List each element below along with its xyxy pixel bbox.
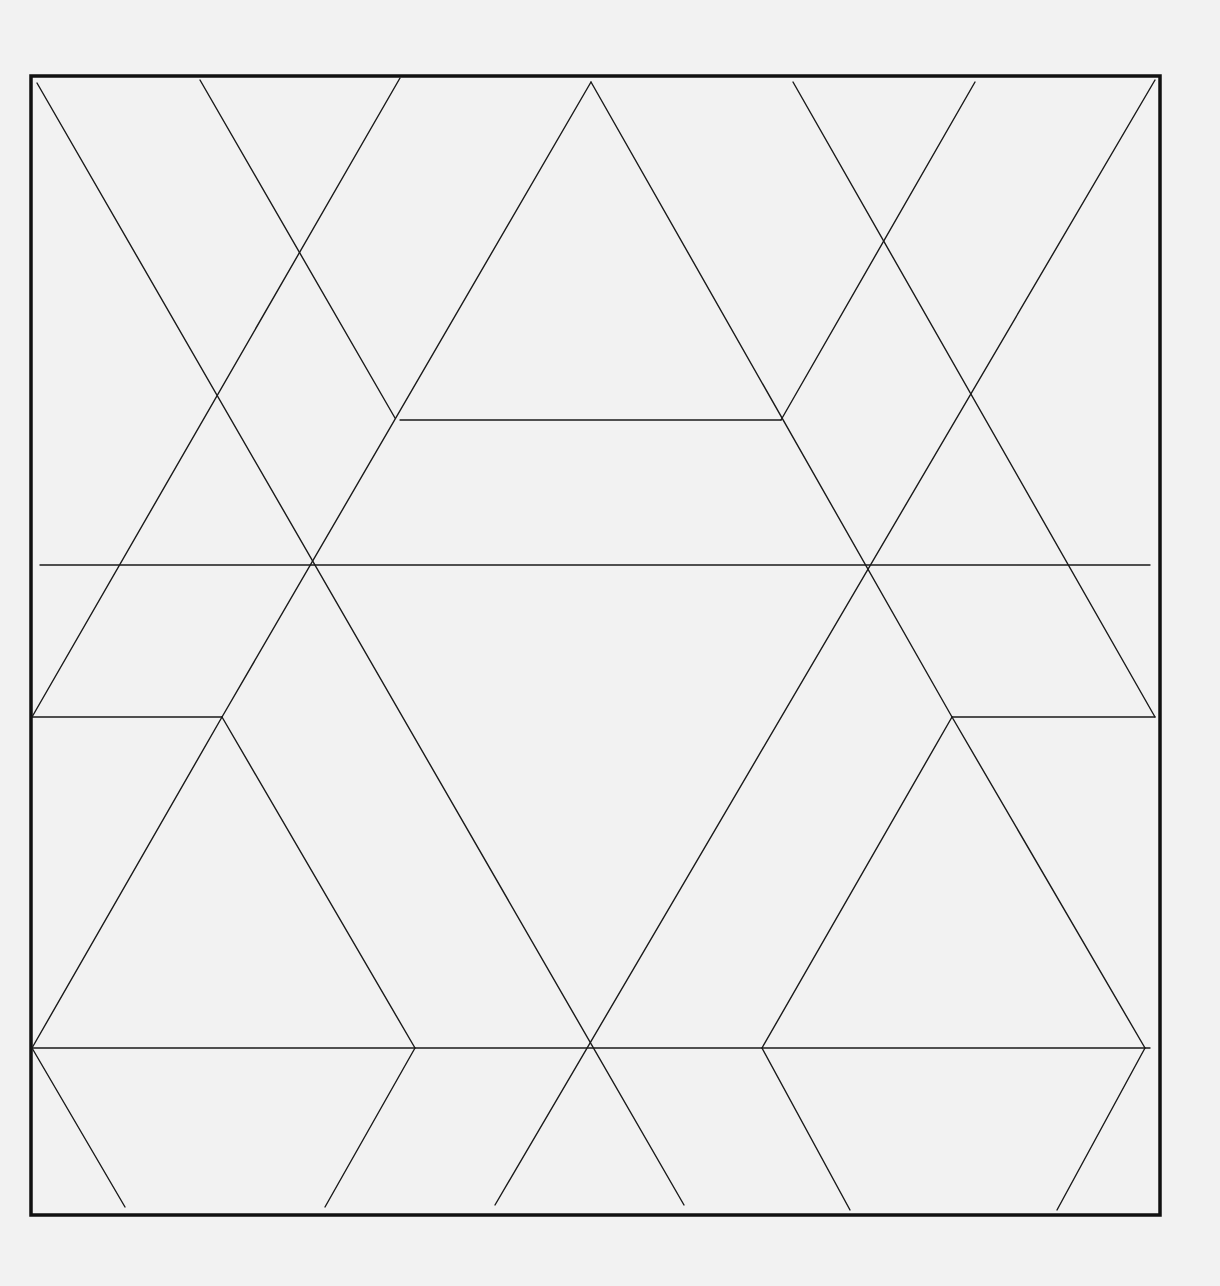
page-background — [0, 0, 1220, 1286]
triangle-tessellation-diagram — [0, 0, 1220, 1286]
